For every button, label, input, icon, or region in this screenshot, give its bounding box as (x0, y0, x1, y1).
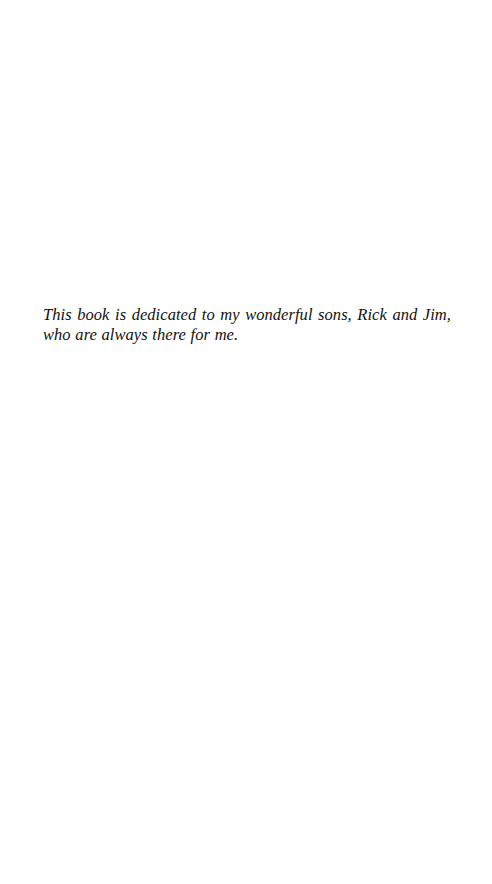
book-page: This book is dedicated to my wonderful s… (0, 0, 492, 884)
dedication-text: This book is dedicated to my wonderful s… (43, 305, 451, 345)
